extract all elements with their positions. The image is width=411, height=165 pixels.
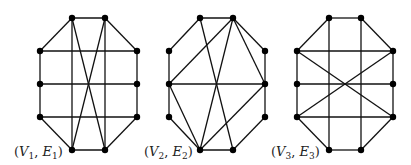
edge-TL-L1 — [297, 18, 329, 51]
vertex-R2 — [390, 81, 396, 87]
vertex-R3 — [262, 114, 268, 120]
graph-1-label: (V1, E1) — [14, 144, 63, 161]
vertex-L1 — [37, 48, 43, 54]
edge-TL-L1 — [40, 18, 72, 51]
graph-3-edges — [297, 18, 393, 150]
edge-L2-BL — [169, 84, 200, 150]
vertex-R3 — [134, 114, 140, 120]
edge-TR-R1 — [105, 18, 137, 51]
vertex-L3 — [166, 114, 172, 120]
edge-TR-R1 — [361, 18, 393, 51]
edge-R3-BR — [361, 117, 393, 150]
vertex-TR — [230, 15, 236, 21]
vertex-R2 — [134, 81, 140, 87]
vertex-BL — [69, 147, 75, 153]
graph-2-edges — [169, 18, 265, 150]
vertex-L2 — [37, 81, 43, 87]
graph-3-label: (V3, E3) — [271, 144, 320, 161]
vertex-BR — [230, 147, 236, 153]
vertex-TR — [358, 15, 364, 21]
vertex-BL — [326, 147, 332, 153]
vertex-TR — [102, 15, 108, 21]
vertex-R1 — [390, 48, 396, 54]
edge-TR-L2 — [169, 18, 233, 84]
vertex-L2 — [166, 81, 172, 87]
vertex-BL — [197, 147, 203, 153]
vertex-L1 — [166, 48, 172, 54]
vertex-R1 — [134, 48, 140, 54]
graph-3: (V3, E3) — [271, 15, 396, 161]
graph-1-edges — [40, 18, 137, 150]
vertex-L1 — [294, 48, 300, 54]
edge-R3-BR — [105, 117, 137, 150]
vertex-R2 — [262, 81, 268, 87]
edge-BL-R2 — [200, 84, 265, 150]
edge-TR-R1 — [233, 18, 265, 51]
vertex-BR — [358, 147, 364, 153]
vertex-R3 — [390, 114, 396, 120]
vertex-TL — [69, 15, 75, 21]
edge-TL-L1 — [169, 18, 200, 51]
vertex-TL — [326, 15, 332, 21]
graph-2: (V2, E2) — [144, 15, 268, 161]
edge-BR-R3 — [233, 117, 265, 150]
vertex-L3 — [37, 114, 43, 120]
graph-figure: (V1, E1) (V2, E2) (V3, E3) — [0, 0, 411, 165]
edge-TR-R2 — [233, 18, 265, 84]
vertex-L2 — [294, 81, 300, 87]
vertex-R1 — [262, 48, 268, 54]
vertex-BR — [102, 147, 108, 153]
vertex-L3 — [294, 114, 300, 120]
vertex-TL — [197, 15, 203, 21]
graph-1: (V1, E1) — [14, 15, 140, 161]
graph-2-label: (V2, E2) — [144, 144, 193, 161]
